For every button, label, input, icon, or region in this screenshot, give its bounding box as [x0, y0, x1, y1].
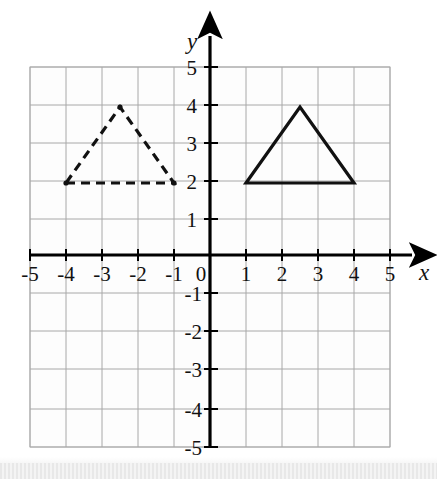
y-tick-label--3: -3 — [185, 358, 203, 382]
x-tick-label--3: -3 — [93, 262, 111, 286]
x-tick-label--5: -5 — [21, 262, 39, 286]
y-tick-label--4: -4 — [185, 398, 203, 422]
x-tick-label-1: 1 — [241, 262, 252, 286]
y-tick-label-4: 4 — [187, 94, 198, 118]
y-tick-label-2: 2 — [187, 170, 198, 194]
y-tick-label-5: 5 — [187, 56, 198, 80]
page-edge-strip — [0, 463, 437, 479]
y-tick-label--1: -1 — [185, 282, 203, 306]
y-tick-label--2: -2 — [185, 320, 203, 344]
y-tick-label-1: 1 — [187, 208, 198, 232]
y-axis-label: y — [185, 29, 198, 54]
y-tick-label-3: 3 — [187, 132, 198, 156]
figure-canvas: -5 -4 -3 -2 -1 0 1 2 3 4 5 5 4 3 2 1 -1 … — [0, 0, 437, 479]
x-tick-label--1: -1 — [165, 262, 183, 286]
x-tick-label--4: -4 — [57, 262, 75, 286]
coordinate-plane-svg: -5 -4 -3 -2 -1 0 1 2 3 4 5 5 4 3 2 1 -1 … — [0, 0, 437, 479]
x-tick-label-3: 3 — [313, 262, 324, 286]
x-tick-label--2: -2 — [129, 262, 147, 286]
x-tick-label-5: 5 — [385, 262, 396, 286]
x-axis-label: x — [418, 260, 430, 285]
x-tick-label-4: 4 — [349, 262, 360, 286]
x-tick-label-2: 2 — [277, 262, 288, 286]
